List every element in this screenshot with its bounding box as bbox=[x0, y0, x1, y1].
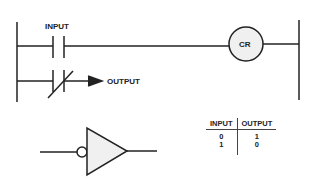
nc-slash bbox=[48, 71, 73, 98]
input-label: INPUT bbox=[45, 22, 69, 31]
col-output: OUTPUT bbox=[237, 118, 276, 130]
inverter-triangle bbox=[87, 128, 127, 175]
output-label: OUTPUT bbox=[107, 77, 140, 86]
coil-label: CR bbox=[239, 40, 251, 49]
col-input: INPUT bbox=[206, 118, 237, 130]
truth-table: INPUT OUTPUT 0 1 1 0 bbox=[206, 118, 276, 155]
inverter-bubble bbox=[77, 147, 87, 157]
arrow-icon bbox=[88, 76, 102, 86]
